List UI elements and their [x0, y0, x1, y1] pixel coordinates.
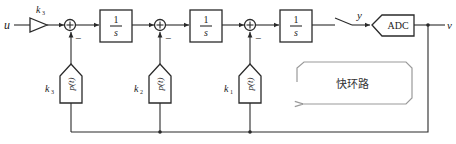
svg-text:s: s	[294, 27, 298, 38]
feedback-dac-block-1: p(t)	[60, 64, 82, 103]
adc-label: ADC	[387, 20, 408, 31]
integrator-block-1: 1 s	[100, 10, 132, 42]
switch-output-label: y	[356, 9, 362, 21]
svg-text:s: s	[204, 27, 208, 38]
svg-text:1: 1	[114, 14, 119, 25]
feedback-gain-1: k	[45, 83, 50, 94]
svg-text:p(t): p(t)	[66, 78, 76, 92]
feedback-dac-block-2: p(t)	[149, 64, 171, 103]
summing-junction-3	[245, 20, 256, 31]
feedback-gain-3-sub: 1	[230, 89, 233, 95]
fast-loop-annotation: 快环路	[297, 62, 412, 104]
input-gain-sub: 3	[42, 10, 45, 16]
summer-2-sign: −	[165, 32, 171, 44]
feedback-gain-1-sub: 3	[51, 89, 54, 95]
input-gain-label: k	[36, 4, 41, 15]
input-label: u	[4, 18, 10, 32]
integrator-block-2: 1 s	[190, 10, 222, 42]
svg-text:p(t): p(t)	[155, 78, 165, 92]
summing-junction-2	[155, 20, 166, 31]
svg-text:p(t): p(t)	[245, 78, 255, 92]
output-label: v	[447, 19, 452, 31]
feedback-dac-block-3: p(t)	[239, 64, 261, 103]
feedback-gain-3: k	[224, 83, 229, 94]
summer-1-sign: −	[75, 32, 81, 44]
integrator-block-3: 1 s	[280, 10, 312, 42]
svg-text:1: 1	[294, 14, 299, 25]
input-gain-triangle: k 3	[30, 4, 47, 32]
fast-loop-label: 快环路	[336, 78, 369, 91]
feedback-gain-2-sub: 2	[140, 89, 143, 95]
summer-3-sign: −	[255, 32, 261, 44]
adc-block: ADC	[372, 15, 414, 36]
svg-text:s: s	[114, 27, 118, 38]
svg-text:1: 1	[204, 14, 209, 25]
summing-junction-1	[65, 20, 76, 31]
feedback-gain-2: k	[134, 83, 139, 94]
